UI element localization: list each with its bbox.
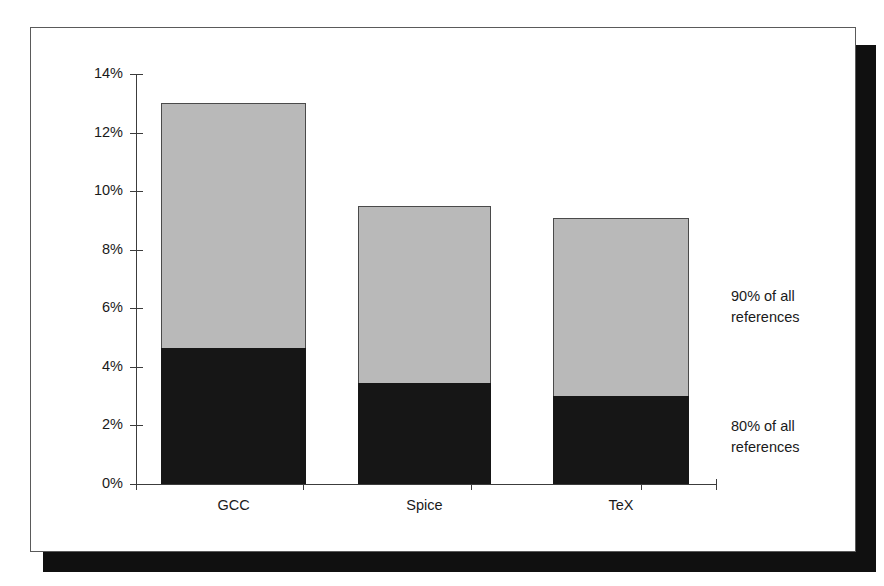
x-axis-line xyxy=(136,484,716,485)
bar-tex xyxy=(553,218,689,485)
y-axis-tick xyxy=(130,74,143,75)
y-axis-tick xyxy=(130,250,143,251)
y-axis-tick-label: 8% xyxy=(63,242,123,257)
y-axis-tick xyxy=(130,191,143,192)
bar-segment-90-percent xyxy=(161,103,306,348)
bar-gcc xyxy=(161,103,306,484)
y-axis-tick xyxy=(130,308,143,309)
figure-page: 14%12%10%8%6%4%2%0% GCCSpiceTeX 90% of a… xyxy=(0,0,884,586)
y-axis-tick-label: 14% xyxy=(63,66,123,81)
y-axis-tick-label: 4% xyxy=(63,359,123,374)
bar-spice xyxy=(358,206,491,484)
x-axis-category-label-gcc: GCC xyxy=(161,498,306,513)
bar-segment-80-percent xyxy=(161,348,306,484)
y-axis-tick-label: 12% xyxy=(63,125,123,140)
y-axis-tick-label: 2% xyxy=(63,417,123,432)
y-axis-line xyxy=(136,74,137,485)
annotation-80-percent: 80% of all references xyxy=(731,416,800,458)
y-axis-tick-label: 10% xyxy=(63,183,123,198)
panel-drop-shadow-right xyxy=(856,45,876,572)
panel-drop-shadow-bottom xyxy=(43,552,876,572)
y-axis-tick xyxy=(130,367,143,368)
y-axis-tick-label: 0% xyxy=(63,476,123,491)
annotation-90-percent: 90% of all references xyxy=(731,286,800,328)
x-axis-category-label-tex: TeX xyxy=(553,498,689,513)
x-axis-tick xyxy=(716,479,717,490)
chart-panel: 14%12%10%8%6%4%2%0% GCCSpiceTeX 90% of a… xyxy=(30,27,856,552)
y-axis-tick-label: 6% xyxy=(63,300,123,315)
bar-segment-80-percent xyxy=(553,396,689,484)
bar-segment-90-percent xyxy=(358,206,491,383)
plot-area: 14%12%10%8%6%4%2%0% GCCSpiceTeX 90% of a… xyxy=(31,28,857,553)
x-axis-category-label-spice: Spice xyxy=(358,498,491,513)
y-axis-tick xyxy=(130,425,143,426)
bar-segment-90-percent xyxy=(553,218,689,397)
bar-segment-80-percent xyxy=(358,383,491,484)
y-axis-tick xyxy=(130,133,143,134)
x-axis-tick xyxy=(136,479,137,490)
